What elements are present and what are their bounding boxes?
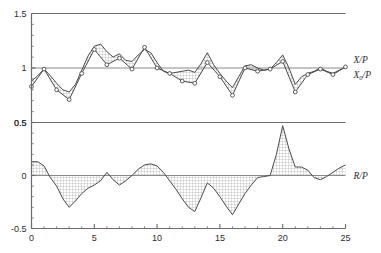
x-tick-label: 15 — [215, 233, 225, 243]
series-marker-x0-over-p — [130, 67, 134, 71]
series-marker-x0-over-p — [268, 67, 272, 71]
series-marker-x0-over-p — [344, 65, 348, 69]
series-marker-x0-over-p — [67, 98, 71, 102]
series-marker-x0-over-p — [218, 75, 222, 79]
series-marker-x0-over-p — [105, 63, 109, 67]
chart-canvas: 1.510.50.50-0.50510152025 X/PX0/PR/P — [0, 0, 381, 253]
x-tick-label: 10 — [152, 233, 162, 243]
y-tick-label-lower: -0.5 — [11, 224, 27, 234]
series-marker-x0-over-p — [55, 88, 59, 92]
series-marker-x0-over-p — [168, 72, 172, 76]
chart-background — [0, 0, 381, 253]
series-marker-x0-over-p — [92, 48, 96, 52]
series-marker-x0-over-p — [143, 45, 147, 49]
y-tick-label-lower: 0.5 — [14, 118, 27, 128]
series-marker-x0-over-p — [80, 72, 84, 76]
series-marker-x0-over-p — [118, 56, 122, 60]
y-tick-label-upper: 1.5 — [14, 9, 27, 19]
series-marker-x0-over-p — [256, 69, 260, 73]
series-marker-x0-over-p — [205, 61, 209, 65]
series-marker-x0-over-p — [180, 79, 184, 83]
series-marker-x0-over-p — [281, 60, 285, 64]
legend-label-x0-over-p: X0/P — [353, 70, 372, 81]
y-tick-label-lower: 0 — [21, 171, 26, 181]
legend-x0-tail: /P — [362, 70, 372, 80]
series-marker-x0-over-p — [243, 66, 247, 70]
x-tick-label: 25 — [340, 233, 350, 243]
series-marker-x0-over-p — [306, 73, 310, 77]
legend-label-r-over-p: R/P — [353, 171, 368, 181]
series-marker-x0-over-p — [318, 67, 322, 71]
legend-label-x-over-p: X/P — [353, 55, 368, 65]
chart-figure: 1.510.50.50-0.50510152025 X/PX0/PR/P — [0, 0, 381, 253]
x-tick-label: 0 — [29, 233, 34, 243]
series-marker-x0-over-p — [42, 67, 46, 71]
series-marker-x0-over-p — [331, 73, 335, 77]
series-marker-x0-over-p — [293, 90, 297, 94]
x-tick-label: 5 — [92, 233, 97, 243]
series-marker-x0-over-p — [193, 81, 197, 85]
series-marker-x0-over-p — [155, 66, 159, 70]
y-tick-label-upper: 1 — [21, 63, 26, 73]
x-tick-label: 20 — [278, 233, 288, 243]
series-marker-x0-over-p — [231, 93, 235, 97]
